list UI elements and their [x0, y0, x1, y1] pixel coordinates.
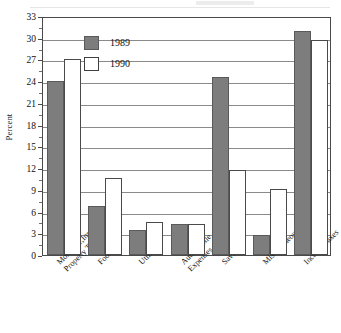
- bar-1990-4: [188, 224, 205, 255]
- bar-1990-3: [146, 222, 163, 255]
- y-tick-mark: [38, 234, 42, 235]
- bar-1990-7: [311, 40, 328, 255]
- y-tick-label: 3: [16, 229, 36, 239]
- y-minor-tick-mark: [39, 50, 42, 51]
- y-axis-title: Percent: [4, 97, 14, 157]
- bar-1990-1: [64, 59, 81, 255]
- legend-label-1990: 1990: [110, 58, 130, 69]
- y-tick-mark: [38, 126, 42, 127]
- y-tick-label: 21: [16, 99, 36, 109]
- scan-rule: [30, 7, 330, 8]
- y-tick-mark: [38, 82, 42, 83]
- y-tick-label: 33: [16, 12, 36, 22]
- y-tick-mark: [38, 191, 42, 192]
- legend-entry-1990: 1990: [84, 53, 130, 74]
- y-minor-tick-mark: [39, 28, 42, 29]
- y-tick-mark: [38, 147, 42, 148]
- y-tick-label: 0: [16, 251, 36, 261]
- y-minor-tick-mark: [39, 158, 42, 159]
- y-tick-label: 18: [16, 121, 36, 131]
- y-tick-mark: [38, 60, 42, 61]
- y-tick-mark: [38, 256, 42, 257]
- gridline: [43, 83, 330, 84]
- gridline: [43, 170, 330, 171]
- legend-label-1989: 1989: [110, 37, 130, 48]
- y-minor-tick-mark: [39, 223, 42, 224]
- y-tick-mark: [38, 169, 42, 170]
- bar-1989-6: [253, 235, 270, 255]
- bar-1989-2: [88, 206, 105, 255]
- bar-1989-4: [171, 224, 188, 255]
- bar-1989-7: [294, 31, 311, 256]
- y-tick-label: 15: [16, 142, 36, 152]
- y-minor-tick-mark: [39, 137, 42, 138]
- legend-swatch-1990: [84, 57, 99, 71]
- bar-1989-3: [129, 230, 146, 255]
- legend-entry-1989: 1989: [84, 32, 130, 53]
- y-minor-tick-mark: [39, 71, 42, 72]
- y-tick-mark: [38, 213, 42, 214]
- y-tick-label: 12: [16, 164, 36, 174]
- gridline: [43, 105, 330, 106]
- scan-artifact: [196, 1, 254, 5]
- y-minor-tick-mark: [39, 93, 42, 94]
- gridline: [43, 127, 330, 128]
- y-tick-mark: [38, 104, 42, 105]
- y-minor-tick-mark: [39, 202, 42, 203]
- y-minor-tick-mark: [39, 115, 42, 116]
- y-minor-tick-mark: [39, 245, 42, 246]
- y-tick-label: 6: [16, 208, 36, 218]
- y-minor-tick-mark: [39, 180, 42, 181]
- bar-1990-2: [105, 178, 122, 255]
- y-tick-label: 9: [16, 186, 36, 196]
- y-tick-mark: [38, 17, 42, 18]
- bar-1989-5: [212, 77, 229, 255]
- y-tick-mark: [38, 39, 42, 40]
- y-tick-label: 27: [16, 55, 36, 65]
- gridline: [43, 148, 330, 149]
- bar-1989-1: [47, 81, 64, 255]
- legend: 19891990: [84, 32, 130, 74]
- y-tick-label: 30: [16, 34, 36, 44]
- legend-swatch-1989: [84, 36, 99, 50]
- bar-1990-5: [229, 170, 246, 255]
- y-tick-label: 24: [16, 77, 36, 87]
- bar-1990-6: [270, 189, 287, 255]
